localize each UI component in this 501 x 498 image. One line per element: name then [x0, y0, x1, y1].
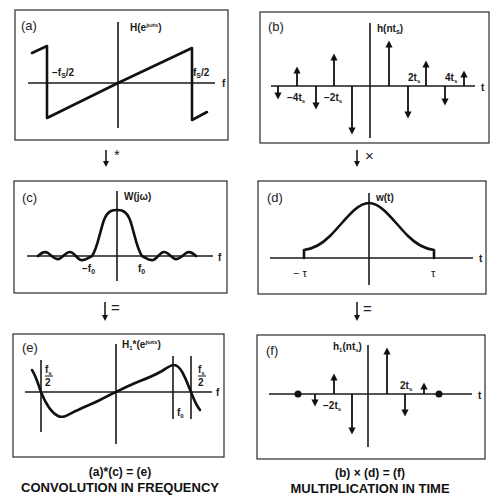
panel-c-title: W(jω): [124, 191, 151, 202]
svg-text:2: 2: [198, 377, 204, 388]
panel-f-stems: [315, 351, 424, 431]
panel-f-axis-label: t: [478, 390, 482, 401]
panel-d-title: w(t): [375, 192, 394, 203]
operator-multiply-arrow: ×: [357, 147, 374, 164]
panel-b-stems: [278, 44, 464, 131]
panel-a-tag: (a): [21, 18, 37, 33]
panel-e-right-fs-half-fraction: fs 2: [198, 364, 206, 388]
operator-equals-left: =: [105, 299, 120, 318]
panel-d-window-function: (d) t w(t) − τ τ: [258, 181, 486, 294]
caption-right-equation: (b) × (d) = (f): [335, 466, 405, 480]
panel-f-tick-neg2ts: −2ts: [323, 400, 342, 412]
panel-a-fs-half-label: fS/2: [193, 67, 210, 79]
convolution-operator: *: [114, 146, 120, 163]
panel-b-tick-neg2ts: −2ts: [324, 92, 343, 104]
panel-c-frame: [14, 181, 227, 293]
panel-f-title: h1(nts): [333, 341, 362, 353]
panel-b-tag: (b): [268, 19, 284, 34]
equals-operator: =: [363, 300, 372, 317]
panel-f-tick-2ts: 2ts: [400, 380, 413, 392]
panel-b-tick-neg4ts: −4ts: [287, 92, 306, 104]
multiplication-operator: ×: [365, 147, 374, 164]
panel-f-zero-dot-left: [295, 391, 302, 398]
panel-b-impulse-response: (b) t h(nts) −4ts −2ts 2ts 4ts: [260, 12, 489, 143]
svg-text:fs: fs: [198, 364, 205, 376]
caption-left-equation: (a)*(c) = (e): [89, 465, 151, 479]
caption-left-title: CONVOLUTION IN FREQUENCY: [21, 480, 219, 495]
panel-a-axis-label: f: [222, 78, 226, 89]
panel-b-title: h(nts): [377, 23, 403, 35]
svg-text:2: 2: [45, 377, 51, 388]
diagram-canvas: (a) f H(ejωts) −fS/2 fS/2 * (b) t h(nts): [0, 0, 501, 498]
caption-right-title: MULTIPLICATION IN TIME: [290, 481, 449, 496]
panel-e-convolved-response: (e) f H1*(ejωts) fs 2 fs 2 f0: [13, 334, 224, 457]
panel-f-zero-dot-right: [436, 391, 443, 398]
panel-e-tag: (e): [22, 340, 38, 355]
operator-equals-right: =: [357, 300, 372, 318]
panel-e-left-fs-half-fraction: fs 2: [45, 364, 53, 388]
panel-d-axis-label: t: [479, 253, 483, 264]
panel-d-tag: (d): [267, 190, 283, 205]
equals-operator: =: [111, 299, 120, 316]
operator-convolve-arrow: *: [106, 146, 120, 164]
panel-b-axis-label: t: [481, 82, 485, 93]
panel-c-window-spectrum: (c) f W(jω) −f0 f0: [14, 181, 227, 293]
panel-f-windowed-impulse-response: (f) t h1(nts) −2ts 2ts: [257, 335, 485, 459]
panel-a-title: H(ejωts): [130, 22, 162, 33]
panel-d-tau-label: τ: [431, 267, 436, 279]
panel-f-frame: [257, 335, 485, 459]
panel-a-frequency-response: (a) f H(ejωts) −fS/2 fS/2: [15, 10, 228, 140]
panel-d-neg-tau-label: − τ: [293, 267, 307, 279]
panel-c-axis-label: f: [218, 252, 222, 263]
panel-a-neg-fs-half-label: −fS/2: [52, 67, 75, 79]
panel-e-title: H1*(ejωts): [122, 339, 161, 351]
panel-b-tick-2ts: 2ts: [408, 72, 421, 84]
panel-e-axis-label: f: [216, 387, 220, 398]
panel-c-f0-label: f0: [138, 263, 145, 275]
panel-f-tag: (f): [266, 343, 278, 358]
panel-e-f0-label: f0: [177, 407, 184, 419]
svg-text:fs: fs: [45, 364, 52, 376]
panel-b-tick-4ts: 4ts: [445, 72, 458, 84]
panel-c-tag: (c): [22, 190, 37, 205]
panel-c-neg-f0-label: −f0: [82, 263, 95, 275]
